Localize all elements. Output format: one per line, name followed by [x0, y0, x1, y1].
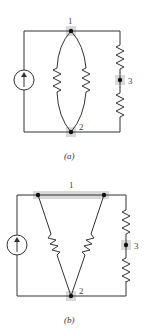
bottom-wire-b: [17, 255, 126, 296]
node-1-a: [69, 29, 73, 33]
node-1-label-b: 1: [69, 180, 74, 190]
caption-b: (b): [64, 315, 75, 325]
lens-left-bottom-a: [57, 92, 71, 132]
circuit-diagrams: 1 2 3 (a) 1 2: [0, 0, 151, 331]
node-3-b: [124, 243, 128, 247]
resistor-icon-right-a: [82, 68, 90, 92]
resistor-icon-left-b: [48, 234, 60, 255]
lens-left-top-a: [57, 31, 71, 68]
node-1-right-b: [102, 193, 106, 197]
node-2-label-a: 2: [79, 122, 84, 132]
caption-a: (a): [64, 151, 75, 161]
node-3-label-a: 3: [128, 76, 133, 86]
lens-right-top-a: [71, 31, 86, 68]
node-3-label-b: 3: [134, 241, 139, 251]
circuit-a: 1 2 3 (a): [14, 16, 133, 161]
node-2-label-b: 2: [79, 286, 84, 296]
node-1-label-a: 1: [68, 16, 73, 26]
bottom-wire-a: [24, 90, 120, 132]
top-wire-a: [24, 31, 120, 70]
resistor-icon-right-b: [82, 234, 94, 255]
node-2-a: [69, 130, 73, 134]
branch-left-bottom-b: [57, 255, 71, 296]
branch-left-top-b: [38, 195, 51, 234]
resistor-icon-left-a: [53, 68, 61, 92]
circuit-b: 1 2 3 (b): [7, 180, 139, 325]
current-source-icon-b: [7, 235, 27, 255]
branch-right-top-b: [91, 195, 104, 234]
node-3-a: [118, 78, 122, 82]
node-2-b: [69, 294, 73, 298]
current-source-icon-a: [14, 70, 34, 90]
top-wire-b: [17, 195, 126, 235]
node-1-left-b: [36, 193, 40, 197]
